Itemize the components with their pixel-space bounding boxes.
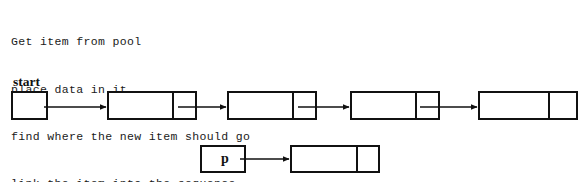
start-pointer-box [11, 91, 48, 120]
start-label: start [13, 74, 40, 90]
new-node [290, 145, 380, 173]
list-node-3 [350, 91, 440, 120]
list-node-2 [227, 91, 317, 120]
list-node-3-divider [415, 93, 417, 118]
list-node-2-divider [292, 93, 294, 118]
screenshot-root: Get item from pool place data in it find… [0, 0, 584, 182]
list-node-1 [107, 91, 197, 120]
list-node-4-divider [548, 93, 550, 118]
linked-list-diagram: start p [0, 0, 584, 182]
list-node-4 [478, 91, 578, 120]
list-node-1-divider [172, 93, 174, 118]
p-pointer-label: p [202, 147, 248, 171]
new-node-divider [356, 147, 358, 171]
p-pointer-box: p [200, 145, 246, 173]
